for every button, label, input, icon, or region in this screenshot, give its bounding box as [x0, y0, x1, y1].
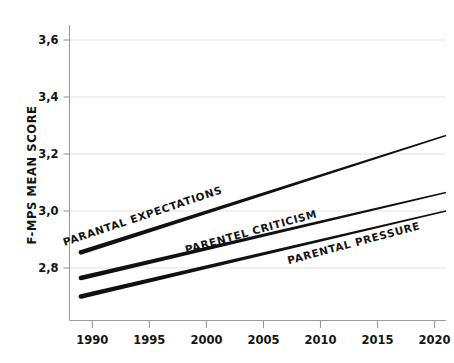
- y-axis-title: F-MPS MEAN SCORE: [25, 105, 39, 244]
- x-tick-label-2005: 2005: [247, 333, 279, 347]
- series-cap-start: [79, 250, 84, 255]
- series-cap-start: [79, 276, 84, 281]
- y-tick-label-3.2: 3,2: [38, 147, 58, 161]
- chart-container: 1990199520002005201020152020 2,83,03,23,…: [0, 0, 454, 363]
- series-cap-start: [79, 294, 84, 299]
- x-tick-label-1995: 1995: [133, 333, 165, 347]
- y-tick-label-3.6: 3,6: [38, 33, 58, 47]
- y-tick-label-3: 3,0: [38, 204, 58, 218]
- y-tick-label-2.8: 2,8: [38, 261, 58, 275]
- x-tick-label-2000: 2000: [190, 333, 222, 347]
- x-tick-label-2010: 2010: [304, 333, 336, 347]
- x-tick-label-2015: 2015: [362, 333, 394, 347]
- chart-background: [0, 0, 454, 363]
- x-tick-label-2020: 2020: [419, 333, 451, 347]
- x-tick-label-1990: 1990: [76, 333, 108, 347]
- y-tick-label-3.4: 3,4: [38, 90, 58, 104]
- line-chart: 1990199520002005201020152020 2,83,03,23,…: [0, 0, 454, 363]
